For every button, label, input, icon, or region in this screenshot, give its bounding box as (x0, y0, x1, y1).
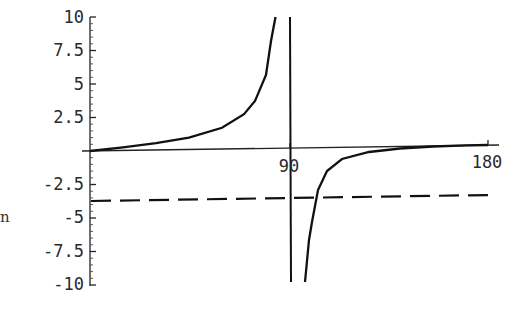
y-tick-label: 5 (74, 74, 84, 94)
x-tick-label: 180 (472, 152, 503, 172)
asymptote-line (290, 17, 291, 282)
y-tick-label: -5 (64, 207, 84, 227)
y-tick-label: 7.5 (53, 40, 84, 60)
tan-curve-right-branch (305, 145, 488, 282)
y-tick-label: -10 (53, 274, 84, 294)
tangent-plot: 10 7.5 5 2.5 -2.5 -5 -7.5 -10 90 180 (0, 0, 530, 325)
y-tick-label: -7.5 (43, 241, 84, 261)
y-tick-label: 10 (64, 7, 84, 27)
y-tick-label: 2.5 (53, 107, 84, 127)
tan-curve-left-branch (90, 17, 276, 151)
y-tick-label: -2.5 (43, 174, 84, 194)
x-tick-label: 90 (279, 156, 299, 176)
